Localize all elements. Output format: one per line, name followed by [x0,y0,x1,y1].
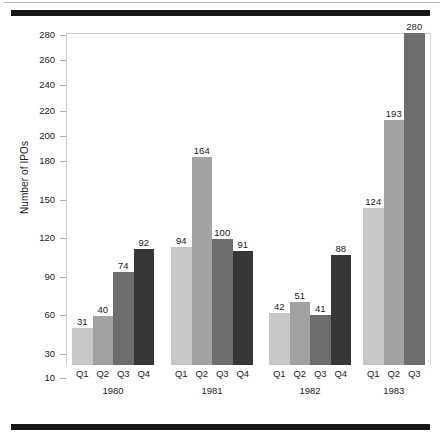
x-quarter-row: Q1Q2Q3Q4 [269,366,351,382]
bar-q4-1981: 91 [233,251,254,365]
x-label-q1-1982: Q1 [273,368,286,379]
x-year-label-1980: 1980 [102,385,123,396]
bar-value-label: 40 [97,304,108,315]
y-tick-label: 60 [0,309,55,320]
y-tick-mark [60,85,66,86]
y-tick-label: 120 [0,232,55,243]
bar-q3-1983: 280 [404,33,425,365]
x-year-label-1983: 1983 [383,385,404,396]
x-quarter-row: Q1Q2Q3Q4 [72,366,154,382]
x-label-q4-1982: Q4 [334,368,347,379]
bar-value-label: 100 [214,227,230,238]
x-label-q1-1983: Q1 [367,368,380,379]
y-tick-label: 220 [0,105,55,116]
bar-value-label: 91 [237,239,248,250]
y-tick-label: 10 [0,372,55,383]
y-tick-mark [60,161,66,162]
bar-group-1980: 31407492 [72,33,154,365]
y-tick-mark [60,60,66,61]
bar-q1-1983: 124 [363,208,384,365]
chart-figure: Number of IPOs 1030609012015018020022024… [0,0,441,441]
y-tick-mark [60,277,66,278]
y-tick-label: 90 [0,271,55,282]
x-label-q2-1980: Q2 [96,368,109,379]
bar-q2-1982: 51 [290,302,311,365]
y-tick-mark [60,35,66,36]
x-group-1983: Q1Q2Q31983 [363,366,425,382]
y-tick-label: 240 [0,79,55,90]
x-label-q3-1982: Q3 [314,368,327,379]
y-tick-mark [60,378,66,379]
y-tick-label: 180 [0,155,55,166]
y-tick-mark [60,238,66,239]
y-tick-label: 30 [0,348,55,359]
bars-area: 31407492941641009142514188124193280 [67,33,431,365]
top-black-rule [11,10,430,16]
bar-q2-1983: 193 [384,120,405,365]
x-label-q1-1981: Q1 [175,368,188,379]
x-quarter-row: Q1Q2Q3 [363,366,425,382]
bar-group-1981: 9416410091 [171,33,253,365]
bottom-black-rule [11,424,430,430]
y-tick-mark [60,111,66,112]
y-tick-mark [60,200,66,201]
x-year-label-1981: 1981 [201,385,222,396]
bar-q3-1982: 41 [310,315,331,365]
bar-group-1982: 42514188 [269,33,351,365]
x-quarter-row: Q1Q2Q3Q4 [171,366,253,382]
x-label-q1-1980: Q1 [76,368,89,379]
bar-value-label: 42 [274,301,285,312]
bar-value-label: 41 [315,303,326,314]
x-label-q4-1981: Q4 [236,368,249,379]
y-tick-mark [60,136,66,137]
bar-q4-1982: 88 [331,255,352,365]
bar-q3-1980: 74 [113,272,134,365]
x-group-1982: Q1Q2Q3Q41982 [269,366,351,382]
x-label-q3-1980: Q3 [117,368,130,379]
top-hairline-rule [4,2,440,3]
y-tick-label: 280 [0,29,55,40]
bar-value-label: 164 [194,145,210,156]
y-tick-label: 200 [0,130,55,141]
x-label-q3-1981: Q3 [216,368,229,379]
bar-value-label: 280 [406,21,422,32]
x-year-label-1982: 1982 [299,385,320,396]
bar-q1-1980: 31 [72,328,93,365]
bar-value-label: 124 [365,196,381,207]
bar-value-label: 94 [176,235,187,246]
bar-value-label: 74 [118,260,129,271]
bar-q1-1982: 42 [269,313,290,365]
x-label-q4-1980: Q4 [137,368,150,379]
bar-q1-1981: 94 [171,247,192,365]
y-tick-mark [60,315,66,316]
x-label-q2-1983: Q2 [387,368,400,379]
x-axis-labels: Q1Q2Q3Q41980Q1Q2Q3Q41981Q1Q2Q3Q41982Q1Q2… [67,366,431,412]
x-group-1981: Q1Q2Q3Q41981 [171,366,253,382]
bar-value-label: 88 [335,243,346,254]
y-tick-mark [60,354,66,355]
x-label-q2-1982: Q2 [293,368,306,379]
bar-value-label: 92 [138,237,149,248]
bar-value-label: 51 [294,290,305,301]
x-label-q2-1981: Q2 [195,368,208,379]
bar-q3-1981: 100 [212,239,233,365]
x-group-1980: Q1Q2Q3Q41980 [72,366,154,382]
bar-value-label: 193 [386,108,402,119]
bar-q2-1980: 40 [93,316,114,365]
y-tick-label: 260 [0,54,55,65]
bar-q4-1980: 92 [134,249,155,365]
x-label-q3-1983: Q3 [408,368,421,379]
bar-group-1983: 124193280 [363,33,425,365]
y-tick-label: 150 [0,194,55,205]
bar-value-label: 31 [77,316,88,327]
bar-q2-1981: 164 [192,157,213,365]
